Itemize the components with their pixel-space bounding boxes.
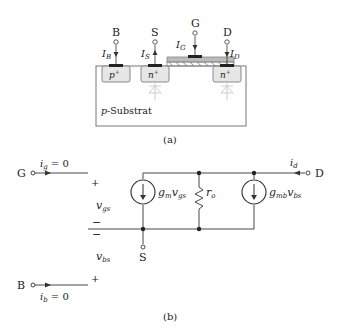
terminal-s-label: S <box>151 26 159 39</box>
terminal-g-label: G <box>191 17 200 30</box>
caption-a: (a) <box>163 134 177 145</box>
vbs-plus: + <box>91 273 99 284</box>
vgs-label: vgs <box>96 199 111 213</box>
substrate-label: p-Substrat <box>101 105 152 116</box>
ig-arrow-icon <box>193 45 198 50</box>
vbs-label: vbs <box>96 250 111 264</box>
source-contact <box>148 64 162 67</box>
gmb-current-source-icon <box>242 180 266 204</box>
gate-terminal-label: G <box>17 167 26 180</box>
ig-arrow-icon <box>45 171 51 176</box>
source-terminal-label: S <box>139 251 147 264</box>
id-arrow-icon <box>225 52 230 57</box>
drain-contact <box>220 64 234 67</box>
terminal-d-label: D <box>223 26 232 39</box>
drain-diode-icon <box>221 82 233 100</box>
gm-current-source-icon <box>131 180 155 204</box>
id-label: id <box>290 157 298 170</box>
gmb-vbs-label: gmbvbs <box>269 186 302 200</box>
caption-b: (b) <box>163 311 177 322</box>
ig-label: ig = 0 <box>40 158 69 171</box>
body-contact <box>109 64 123 67</box>
ro-label: ro <box>206 186 215 200</box>
mosfet-cross-section: p-Substrat p+ n+ n+ <box>96 17 246 145</box>
vbs-minus: − <box>92 228 101 241</box>
gate-contact <box>188 55 202 58</box>
current-is-label: IS <box>140 48 150 61</box>
ib-arrow-icon <box>45 283 51 288</box>
mosfet-diagram: p-Substrat p+ n+ n+ <box>0 0 338 328</box>
junction-dots <box>141 171 256 231</box>
source-diode-icon <box>149 82 161 100</box>
current-ig-label: IG <box>175 39 186 52</box>
vgs-plus: + <box>91 177 99 188</box>
terminal-b-label: B <box>112 26 120 39</box>
id-arrow-icon <box>294 171 300 176</box>
gm-vgs-label: gmvgs <box>158 186 186 200</box>
current-ib-label: IB <box>101 48 111 61</box>
ib-arrow-icon <box>114 52 119 57</box>
drain-terminal-label: D <box>315 167 324 180</box>
ib-label: ib = 0 <box>40 291 69 304</box>
is-arrow-icon <box>153 50 158 55</box>
bulk-terminal-label: B <box>17 279 25 292</box>
